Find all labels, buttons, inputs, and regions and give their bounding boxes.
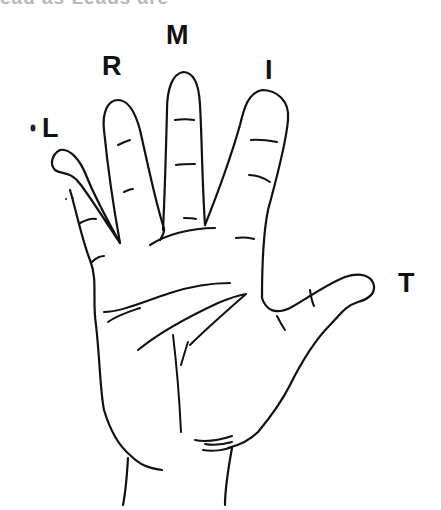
- ring-finger-crease-1: [118, 140, 130, 145]
- middle-finger-crease-3: [184, 218, 196, 219]
- palm-finger-base: [150, 228, 215, 245]
- index-finger-crease-3: [236, 238, 254, 239]
- wrist-right-line: [225, 448, 232, 505]
- index-finger-crease-1: [251, 140, 277, 142]
- little-finger-crease-2: [92, 256, 104, 262]
- wrist-crease-3: [203, 447, 232, 451]
- little-finger-label: L: [42, 115, 59, 142]
- ink-dot: [72, 197, 74, 199]
- heart-line: [104, 283, 230, 312]
- middle-finger-crease-1: [175, 119, 194, 120]
- little-finger-crease-1: [80, 219, 96, 223]
- wrist-left-line: [123, 458, 128, 505]
- hand-outline-drawing: [0, 0, 441, 510]
- ring-finger-crease-2: [124, 189, 133, 192]
- little-finger-outline: [52, 150, 120, 243]
- thumb-outline: [228, 275, 374, 448]
- index-finger-crease-2: [249, 175, 270, 182]
- middle-finger-outline: [163, 72, 205, 230]
- heart-line-branch: [108, 308, 140, 322]
- index-finger-outline: [205, 90, 288, 298]
- middle-finger-crease-2: [176, 164, 195, 165]
- thumb-label: T: [398, 270, 415, 297]
- ring-finger-label: R: [102, 53, 122, 80]
- thumb-crease: [310, 290, 314, 306]
- index-finger-label: I: [265, 57, 273, 84]
- middle-finger-label: M: [166, 22, 189, 49]
- ring-finger-outline: [104, 100, 164, 243]
- life-line: [173, 335, 181, 432]
- thumb-base-crease: [277, 316, 285, 330]
- ink-dot: [65, 198, 67, 200]
- head-line-upper: [190, 294, 246, 345]
- ink-speck: [31, 125, 36, 132]
- head-line: [138, 294, 246, 350]
- life-line-branch: [181, 342, 188, 365]
- wrist-crease-2: [205, 442, 232, 445]
- wrist-crease-1: [195, 436, 232, 441]
- hand-left-edge: [70, 190, 162, 470]
